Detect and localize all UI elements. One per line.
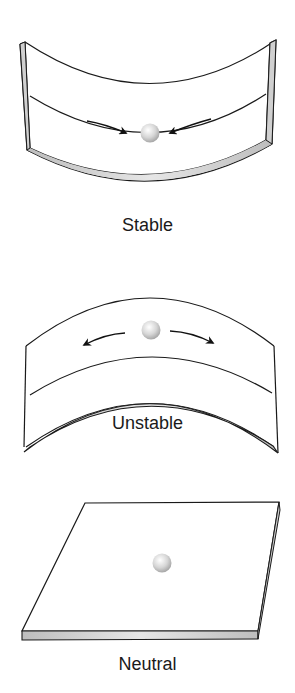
stable-left-edge <box>20 42 30 150</box>
arrow-left-icon <box>84 333 125 345</box>
neutral-ball <box>153 554 172 573</box>
neutral-label: Neutral <box>0 654 295 675</box>
arrow-left-icon <box>170 119 211 133</box>
neutral-plate-top <box>22 502 279 631</box>
stable-label: Stable <box>0 215 295 236</box>
neutral-plate-front-edge <box>22 631 258 640</box>
stable-ball <box>141 124 160 143</box>
equilibrium-diagram <box>0 0 295 693</box>
arrow-right-icon <box>87 121 126 133</box>
stable-right-edge <box>266 40 276 144</box>
unstable-label: Unstable <box>0 413 295 434</box>
arrow-right-icon <box>170 331 213 343</box>
unstable-ball <box>142 321 161 340</box>
